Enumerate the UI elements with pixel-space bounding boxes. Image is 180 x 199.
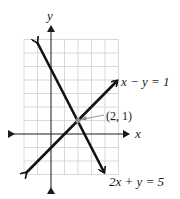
- equation-label-line1: x − y = 1: [120, 74, 170, 89]
- intersection-point: [75, 118, 80, 123]
- y-axis-label: y: [45, 8, 53, 23]
- line-x-minus-y-equals-1: [26, 81, 117, 173]
- equation-label-line2: 2x + y = 5: [109, 174, 165, 189]
- point-label: (2, 1): [106, 109, 132, 123]
- system-of-equations-graph: y x (2, 1) x − y = 1 2x + y = 5: [0, 0, 180, 199]
- x-axis-label: x: [134, 126, 141, 141]
